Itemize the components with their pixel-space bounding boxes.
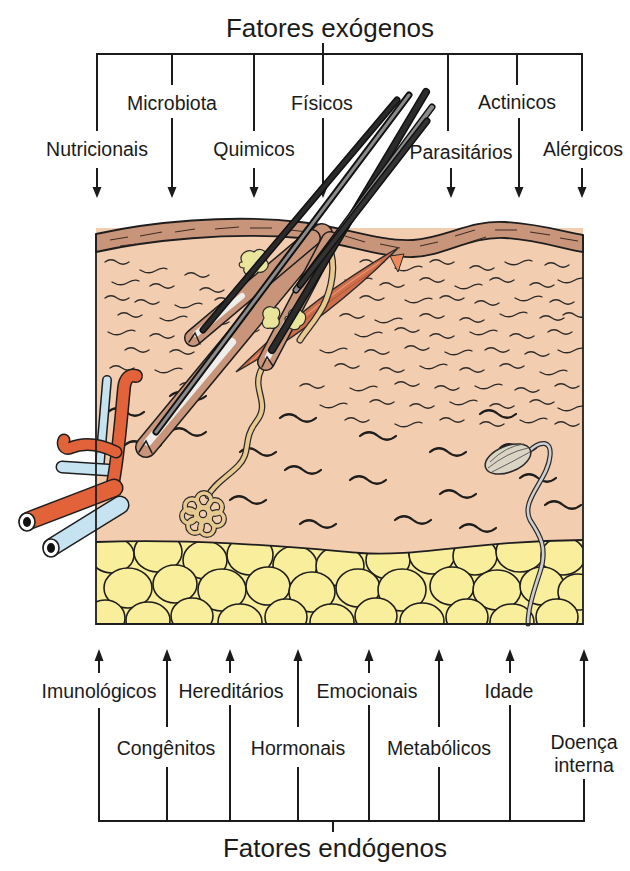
factor-label: Actinicos bbox=[478, 91, 556, 113]
down-arrow-icon bbox=[168, 187, 177, 198]
factor-label: Imunológicos bbox=[42, 680, 157, 702]
diagram-svg: Fatores exógenos Nutricionais Microbiota… bbox=[0, 0, 630, 871]
endogenous-factor-hormonais: Hormonais bbox=[251, 649, 346, 821]
title-endogenous: Fatores endógenos bbox=[223, 833, 447, 863]
factor-label: Idade bbox=[485, 680, 534, 702]
factor-label: Quimicos bbox=[213, 138, 295, 160]
endogenous-factor-emocionais: Emocionais bbox=[317, 649, 418, 821]
endogenous-footer: Fatores endógenos bbox=[98, 821, 585, 863]
exogenous-factor-quimicos: Quimicos bbox=[213, 54, 295, 198]
endogenous-factor-metabolicos: Metabólicos bbox=[387, 649, 491, 821]
down-arrow-icon bbox=[447, 187, 456, 198]
endogenous-factor-doenca-interna: Doença interna bbox=[550, 649, 617, 821]
down-arrow-icon bbox=[93, 187, 102, 198]
factor-label: Congênitos bbox=[117, 737, 216, 759]
down-arrow-icon bbox=[250, 187, 259, 198]
skin-cross-section bbox=[19, 92, 598, 640]
factor-label: Hormonais bbox=[251, 737, 346, 759]
exogenous-factor-nutricionais: Nutricionais bbox=[46, 54, 148, 198]
factor-label: Físicos bbox=[291, 92, 353, 114]
endogenous-factor-idade: Idade bbox=[485, 649, 534, 821]
factor-label: Microbiota bbox=[127, 92, 217, 114]
skin-factors-diagram: Fatores exógenos Nutricionais Microbiota… bbox=[0, 0, 630, 871]
exogenous-header: Fatores exógenos bbox=[96, 13, 583, 54]
factor-label-line-1: Doença bbox=[550, 731, 617, 753]
factor-label: Nutricionais bbox=[46, 138, 148, 160]
factor-label: Metabólicos bbox=[387, 737, 491, 759]
title-exogenous: Fatores exógenos bbox=[226, 13, 434, 43]
endogenous-factor-hereditarios: Hereditários bbox=[178, 649, 283, 821]
down-arrow-icon bbox=[515, 187, 524, 198]
down-arrow-icon bbox=[578, 187, 587, 198]
dermis-layer bbox=[96, 228, 583, 558]
factor-label: Parasitários bbox=[410, 141, 513, 163]
factor-label-line-2: interna bbox=[554, 754, 614, 776]
exogenous-factor-actinicos: Actinicos bbox=[478, 54, 556, 198]
endogenous-factor-imunologicos: Imunológicos bbox=[42, 649, 157, 821]
factor-label: Alérgicos bbox=[543, 138, 623, 160]
factor-label: Hereditários bbox=[178, 680, 283, 702]
exogenous-factor-alergicos: Alérgicos bbox=[543, 54, 623, 198]
factor-label: Emocionais bbox=[317, 680, 418, 702]
exogenous-factor-microbiota: Microbiota bbox=[127, 54, 217, 198]
endogenous-factor-congenitos: Congênitos bbox=[117, 649, 216, 821]
